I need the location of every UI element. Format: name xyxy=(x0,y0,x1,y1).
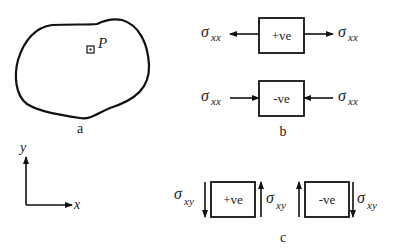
svg-text:σ: σ xyxy=(338,87,347,104)
svg-text:xy: xy xyxy=(183,195,194,207)
sigma-xx-label-br: σ xx xyxy=(338,87,358,107)
sigma-xy-label-mid: σ xy xyxy=(266,189,286,211)
stress-diagram: P a y x +ve σ xx σ xx -ve σ xx σ xyxy=(0,0,395,250)
svg-text:σ: σ xyxy=(201,87,210,104)
sigma-xx-label-tr: σ xx xyxy=(338,23,358,43)
panel-c: +ve σ xy σ xy -ve σ xy c xyxy=(174,182,377,245)
body-outline xyxy=(16,19,149,118)
coordinate-axes: y x xyxy=(18,140,81,212)
svg-text:xx: xx xyxy=(347,31,358,43)
compression-box-label: -ve xyxy=(273,91,290,106)
caption-b: b xyxy=(280,124,287,139)
point-p-marker xyxy=(87,46,94,53)
caption-a: a xyxy=(77,121,84,136)
sigma-xy-label-left: σ xy xyxy=(174,185,194,207)
negative-shear-box-label: -ve xyxy=(319,192,336,207)
y-axis-label: y xyxy=(18,140,27,155)
caption-c: c xyxy=(280,230,286,245)
panel-a: P a xyxy=(16,19,149,136)
point-p-label: P xyxy=(97,35,107,51)
svg-text:xx: xx xyxy=(210,95,221,107)
svg-text:σ: σ xyxy=(357,189,366,206)
panel-b: +ve σ xx σ xx -ve σ xx σ xx b xyxy=(201,18,358,139)
svg-text:σ: σ xyxy=(266,189,275,206)
positive-shear-box-label: +ve xyxy=(223,192,243,207)
svg-text:xy: xy xyxy=(275,199,286,211)
svg-text:xx: xx xyxy=(347,95,358,107)
svg-text:σ: σ xyxy=(201,23,210,40)
svg-text:xx: xx xyxy=(210,31,221,43)
sigma-xy-label-right: σ xy xyxy=(357,189,377,211)
sigma-xx-label-bl: σ xx xyxy=(201,87,221,107)
svg-text:σ: σ xyxy=(338,23,347,40)
sigma-xx-label-tl: σ xx xyxy=(201,23,221,43)
svg-text:σ: σ xyxy=(174,185,183,202)
tension-box-label: +ve xyxy=(272,28,292,43)
x-axis-label: x xyxy=(73,197,81,212)
svg-text:xy: xy xyxy=(366,199,377,211)
